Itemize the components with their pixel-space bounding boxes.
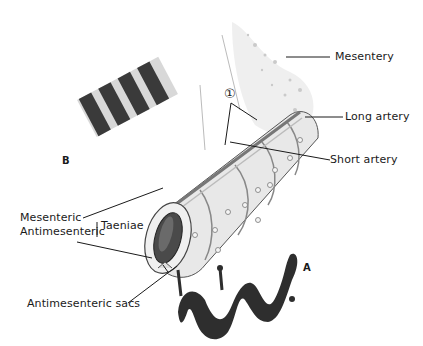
label-panel-a: A	[303, 262, 311, 273]
label-mesenteric: Mesenteric	[20, 211, 81, 224]
panel-b-bands	[77, 57, 178, 137]
mesenteric-leader	[83, 188, 163, 218]
label-short-artery: Short artery	[330, 153, 398, 166]
label-antimesenteric-sacs: Antimesenteric sacs	[27, 297, 140, 310]
label-panel-b: B	[62, 155, 70, 166]
label-taeniae: Taeniae	[101, 219, 144, 232]
colon-segment	[137, 112, 318, 279]
label-mesentery: Mesentery	[335, 50, 394, 63]
marker-leader-a	[225, 103, 231, 145]
label-long-artery: Long artery	[345, 110, 410, 123]
label-antimesenteric: Antimesenteric	[20, 225, 105, 238]
label-marker-1: ①	[224, 86, 236, 101]
antimesenteric-leader	[77, 242, 152, 258]
